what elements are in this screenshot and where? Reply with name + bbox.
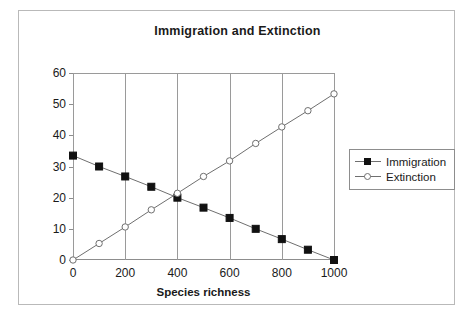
open-circle-marker-icon (355, 171, 381, 183)
y-tick-label-10: 10 (53, 222, 66, 236)
data-point-immigration-800 (278, 236, 285, 243)
y-tick-label-0: 0 (59, 253, 66, 267)
chart-legend: Immigration Extinction (349, 149, 455, 190)
data-point-extinction-300 (148, 207, 154, 213)
y-tick-label-30: 30 (53, 160, 66, 174)
filled-square-marker-icon (355, 156, 381, 168)
x-tick-label-600: 600 (220, 266, 240, 280)
data-point-extinction-1000 (331, 91, 337, 97)
data-series-layer (73, 73, 334, 260)
data-point-extinction-800 (279, 124, 285, 130)
data-point-immigration-700 (252, 225, 259, 232)
data-point-immigration-500 (200, 204, 207, 211)
data-point-immigration-200 (122, 173, 129, 180)
x-tick-label-200: 200 (115, 266, 135, 280)
data-point-extinction-0 (70, 257, 76, 263)
data-point-immigration-100 (96, 163, 103, 170)
x-tick-label-1000: 1000 (321, 266, 348, 280)
data-point-extinction-100 (96, 240, 102, 246)
y-tick-label-50: 50 (53, 97, 66, 111)
data-point-immigration-600 (226, 214, 233, 221)
data-point-extinction-700 (253, 140, 259, 146)
data-point-immigration-900 (304, 246, 311, 253)
x-tick-label-400: 400 (167, 266, 187, 280)
gridline-x-1000 (334, 73, 335, 260)
data-point-extinction-200 (122, 224, 128, 230)
x-tick-label-0: 0 (70, 266, 77, 280)
data-point-immigration-1000 (331, 257, 338, 264)
data-point-extinction-600 (226, 158, 232, 164)
y-tick-label-20: 20 (53, 191, 66, 205)
x-tick-label-800: 800 (272, 266, 292, 280)
legend-item-immigration[interactable]: Immigration (355, 154, 449, 169)
plot-area: 0102030405060 02004006008001000 Species … (73, 73, 334, 260)
legend-label-immigration: Immigration (386, 156, 446, 168)
data-point-immigration-300 (148, 183, 155, 190)
data-point-extinction-900 (305, 108, 311, 114)
chart-frame: Immigration and Extinction 0102030405060… (18, 10, 455, 305)
legend-label-extinction: Extinction (386, 171, 436, 183)
data-point-immigration-0 (70, 152, 77, 159)
legend-item-extinction[interactable]: Extinction (355, 169, 449, 184)
y-tick-label-40: 40 (53, 128, 66, 142)
data-point-extinction-400 (174, 190, 180, 196)
x-axis-title: Species richness (73, 286, 334, 298)
y-tick-label-60: 60 (53, 66, 66, 80)
data-point-extinction-500 (200, 173, 206, 179)
chart-title: Immigration and Extinction (19, 24, 456, 38)
